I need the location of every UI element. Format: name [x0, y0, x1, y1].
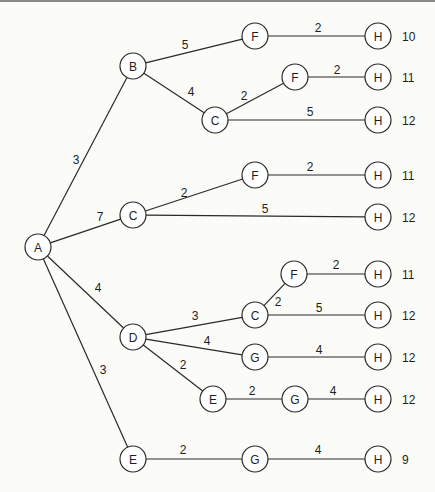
edge-a-e2	[43, 259, 127, 447]
node-f2: F	[282, 64, 308, 90]
edge-d-e1	[143, 345, 202, 391]
edge-weight-label: 2	[307, 160, 314, 174]
node-label: H	[374, 393, 383, 407]
edge-d-g1	[146, 339, 242, 355]
path-total-label: 12	[402, 309, 416, 323]
node-label: F	[291, 71, 298, 85]
path-total-label: 12	[402, 351, 416, 365]
edge-weight-label: 5	[262, 202, 269, 216]
node-d: D	[120, 324, 146, 350]
edge-weight-label: 7	[97, 210, 104, 224]
node-c3: C	[242, 302, 268, 328]
node-label: B	[129, 60, 137, 74]
node-e2: E	[120, 446, 146, 472]
edge-weight-label: 4	[188, 85, 195, 99]
tree-diagram: 374354222522532254422424 ABFHCFHHCFHHDCF…	[0, 0, 435, 492]
edge-weight-label: 3	[73, 153, 80, 167]
edge-weight-label: 4	[204, 334, 211, 348]
node-label: F	[251, 169, 258, 183]
edge-weight-label: 2	[333, 258, 340, 272]
path-total-label: 10	[402, 30, 416, 44]
edge-weight-label: 5	[307, 105, 314, 119]
node-h10: H	[365, 446, 391, 472]
edge-weight-label: 5	[182, 38, 189, 52]
node-label: A	[34, 241, 42, 255]
edge-weight-label: 4	[315, 443, 322, 457]
edge-a-d	[47, 256, 123, 328]
path-total-label: 12	[402, 393, 416, 407]
edge-weight-label: 4	[316, 343, 323, 357]
node-label: H	[374, 30, 383, 44]
node-label: C	[129, 209, 138, 223]
node-h9: H	[365, 386, 391, 412]
node-label: E	[209, 393, 217, 407]
edge-weight-label: 4	[330, 384, 337, 398]
node-label: G	[290, 393, 299, 407]
edge-weight-label: 2	[180, 443, 187, 457]
node-g2: G	[282, 386, 308, 412]
edge-weight-label: 3	[192, 309, 199, 323]
path-total-label: 9	[402, 453, 409, 467]
path-total-label: 12	[402, 211, 416, 225]
node-label: D	[129, 331, 138, 345]
edge-a-b	[44, 78, 127, 236]
edge-b-c1	[144, 73, 204, 113]
edge-weight-label: 3	[100, 363, 107, 377]
node-g3: G	[242, 446, 268, 472]
node-label: E	[129, 453, 137, 467]
node-b: B	[120, 53, 146, 79]
node-a: A	[25, 234, 51, 260]
nodes-layer: ABFHCFHHCFHHDCFHHGHEGHEGH	[25, 23, 391, 472]
path-total-label: 11	[402, 169, 415, 183]
edge-weight-label: 2	[181, 186, 188, 200]
edge-weight-label: 2	[180, 358, 187, 372]
node-h8: H	[365, 344, 391, 370]
node-h5: H	[365, 204, 391, 230]
node-e1: E	[200, 386, 226, 412]
edge-a-c2	[50, 219, 120, 243]
node-label: G	[250, 453, 259, 467]
node-f3: F	[242, 162, 268, 188]
node-label: C	[251, 309, 260, 323]
node-label: H	[374, 453, 383, 467]
node-label: H	[374, 71, 383, 85]
node-label: F	[251, 30, 258, 44]
node-label: H	[374, 211, 383, 225]
path-total-label: 11	[402, 268, 415, 282]
node-f4: F	[281, 261, 307, 287]
edge-weight-label: 2	[249, 384, 256, 398]
node-h1: H	[365, 23, 391, 49]
path-total-label: 12	[402, 114, 416, 128]
node-h7: H	[365, 302, 391, 328]
node-h6: H	[365, 261, 391, 287]
edge-c1-f2	[226, 83, 283, 114]
edge-weight-label: 2	[334, 63, 341, 77]
node-c1: C	[202, 107, 228, 133]
edge-weight-label: 2	[275, 295, 282, 309]
path-total-label: 11	[402, 71, 415, 85]
node-label: H	[374, 268, 383, 282]
node-c2: C	[120, 202, 146, 228]
node-h4: H	[365, 162, 391, 188]
edge-weight-label: 5	[316, 301, 323, 315]
node-label: H	[374, 169, 383, 183]
edge-c2-f3	[145, 179, 242, 211]
path-totals-layer: 1011121112111212129	[402, 30, 416, 467]
node-label: H	[374, 114, 383, 128]
node-h3: H	[365, 107, 391, 133]
node-label: G	[250, 351, 259, 365]
edge-weight-label: 2	[315, 21, 322, 35]
node-label: H	[374, 309, 383, 323]
node-label: C	[211, 114, 220, 128]
node-h2: H	[365, 64, 391, 90]
edge-weight-label: 4	[95, 281, 102, 295]
node-label: H	[374, 351, 383, 365]
edge-weight-label: 2	[241, 89, 248, 103]
node-f1: F	[242, 23, 268, 49]
node-g1: G	[242, 344, 268, 370]
node-label: F	[290, 268, 297, 282]
edge-c2-h5	[146, 215, 365, 217]
edge-b-f1	[146, 39, 243, 63]
